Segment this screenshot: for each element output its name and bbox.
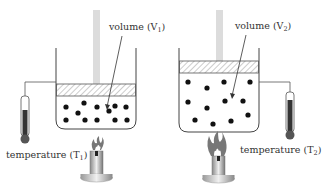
left-thermometer-wire	[25, 82, 56, 96]
right-thermometer-wire	[259, 82, 290, 92]
right-volume-label: volume (V2)	[234, 20, 291, 33]
left-thermometer-icon	[21, 96, 30, 144]
right-piston-rod	[216, 10, 223, 61]
gas-law-diagram: volume (V1) temperature (T1)	[0, 0, 326, 189]
right-piston	[180, 61, 259, 73]
right-burner-icon	[203, 131, 235, 183]
left-piston-rod	[93, 10, 100, 84]
left-setup: volume (V1) temperature (T1)	[6, 10, 165, 182]
left-piston	[57, 84, 136, 96]
right-gas-particles	[185, 79, 252, 126]
left-gas-particles	[63, 100, 129, 122]
right-thermometer-icon	[286, 92, 295, 140]
left-temperature-label: temperature (T1)	[6, 149, 87, 162]
right-setup: volume (V2) temperature (T2)	[179, 10, 321, 183]
right-temperature-label: temperature (T2)	[240, 144, 321, 157]
left-volume-label: volume (V1)	[108, 21, 165, 34]
